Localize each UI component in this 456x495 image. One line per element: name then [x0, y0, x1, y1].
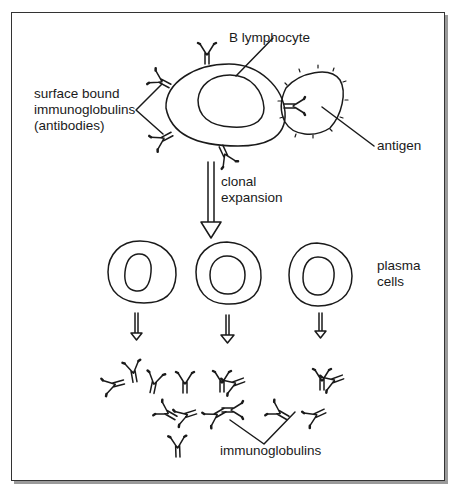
- plasma-label-line1: plasma: [377, 258, 421, 274]
- surface-label-line1: surface bound: [34, 86, 135, 102]
- clonal-label-line2: expansion: [221, 190, 283, 206]
- clonal-expansion-arrow: [201, 162, 221, 238]
- b-lymphocyte-label: B lymphocyte: [229, 30, 310, 46]
- plasma-cell-3: [289, 243, 352, 306]
- surface-immunoglobulins-pointer: [136, 84, 163, 134]
- plasma-cell-2: [196, 242, 261, 304]
- b-lymphocyte-cell: [166, 64, 285, 146]
- immunoglobulins-label: immunoglobulins: [220, 443, 321, 459]
- plasma-label-line2: cells: [377, 274, 421, 290]
- clonal-label-line1: clonal: [221, 174, 283, 190]
- clonal-expansion-label: clonal expansion: [221, 174, 283, 206]
- plasma-cell-1: [108, 241, 176, 303]
- antigen-cell: [278, 65, 348, 138]
- surface-immunoglobulins-label: surface bound immunoglobulins (antibodie…: [34, 86, 135, 134]
- antigen-label: antigen: [377, 138, 421, 154]
- surface-label-line2: immunoglobulins: [34, 102, 135, 118]
- immunoglobulins-pointer: [230, 412, 295, 444]
- antigen-pointer: [322, 107, 374, 146]
- surface-label-line3: (antibodies): [34, 118, 135, 134]
- diagram-canvas: [0, 0, 456, 495]
- plasma-secretion-arrows: [131, 313, 326, 343]
- plasma-cells-label: plasma cells: [377, 258, 421, 290]
